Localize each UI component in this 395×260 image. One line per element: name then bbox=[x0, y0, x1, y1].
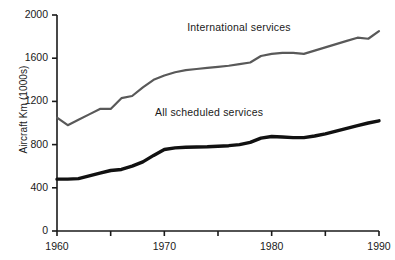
international-services-label: International services bbox=[187, 21, 291, 33]
x-tick-label: 1970 bbox=[134, 240, 194, 252]
y-tick-label: 800 bbox=[0, 138, 48, 150]
x-tick-label: 1960 bbox=[27, 240, 87, 252]
data-series bbox=[57, 31, 379, 179]
y-tick-label: 400 bbox=[0, 181, 48, 193]
axes bbox=[52, 15, 379, 236]
y-tick-label: 1600 bbox=[0, 51, 48, 63]
y-tick-label: 1200 bbox=[0, 94, 48, 106]
y-tick-label: 2000 bbox=[0, 8, 48, 20]
x-tick-label: 1980 bbox=[242, 240, 302, 252]
y-tick-label: 0 bbox=[0, 224, 48, 236]
x-tick-label: 1990 bbox=[349, 240, 395, 252]
series-line bbox=[57, 121, 379, 179]
all-scheduled-services-label: All scheduled services bbox=[155, 106, 263, 118]
